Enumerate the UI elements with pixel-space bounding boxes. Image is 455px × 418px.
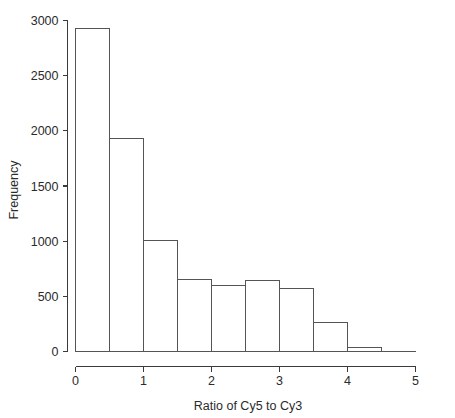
histogram-bar	[144, 240, 178, 351]
histogram-figure: 050010001500200025003000 012345 Ratio of…	[0, 0, 455, 418]
y-axis-tick-label: 0	[52, 345, 59, 359]
x-axis-title: Ratio of Cy5 to Cy3	[194, 399, 302, 413]
y-axis-title: Frequency	[7, 160, 21, 220]
x-axis-tick-label: 1	[140, 374, 147, 388]
histogram-bar	[212, 286, 246, 352]
y-axis-tick-label: 500	[38, 290, 59, 304]
histogram-bar	[76, 28, 110, 351]
histogram-bar	[348, 348, 382, 352]
y-axis-tick-label: 3000	[31, 14, 59, 28]
x-axis-tick-label: 2	[208, 374, 215, 388]
bars-group	[76, 28, 382, 351]
y-axis-tick-label: 1500	[31, 180, 59, 194]
histogram-bar	[314, 323, 348, 352]
y-axis-tick-label: 2500	[31, 69, 59, 83]
histogram-bar	[246, 280, 280, 351]
histogram-bar	[280, 289, 314, 352]
plot-area: 050010001500200025003000 012345 Ratio of…	[0, 0, 455, 418]
x-axis-tick-label: 3	[276, 374, 283, 388]
x-axis-tick-label: 0	[72, 374, 79, 388]
x-axis-tick-label: 5	[412, 374, 419, 388]
histogram-chart: 050010001500200025003000 012345 Ratio of…	[0, 0, 455, 418]
x-axis-group: 012345	[72, 367, 419, 388]
y-axis-tick-label: 2000	[31, 124, 59, 138]
y-axis-group: 050010001500200025003000	[31, 14, 68, 359]
histogram-bar	[178, 280, 212, 352]
histogram-bar	[110, 139, 144, 352]
x-axis-tick-label: 4	[344, 374, 351, 388]
y-axis-tick-label: 1000	[31, 235, 59, 249]
